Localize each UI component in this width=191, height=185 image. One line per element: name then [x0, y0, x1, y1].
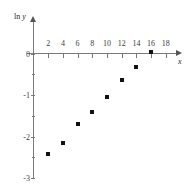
x-axis-tick	[63, 54, 64, 58]
y-axis-line	[33, 22, 34, 178]
y-axis-arrow-icon	[30, 16, 36, 22]
data-point	[149, 50, 153, 54]
x-axis-tick	[122, 54, 123, 58]
x-axis-tick	[166, 54, 167, 58]
data-point	[90, 110, 94, 114]
y-axis-tick-label: -1	[18, 91, 30, 100]
x-axis-tick	[136, 54, 137, 58]
x-axis-tick	[151, 54, 152, 58]
y-axis-minor-tick	[32, 157, 35, 158]
x-axis-tick-label: 4	[61, 39, 65, 48]
x-axis-tick-label: 14	[132, 39, 140, 48]
x-axis-arrow-icon	[176, 50, 182, 56]
x-axis-tick-label: 16	[147, 39, 155, 48]
y-axis-title-variable: y	[22, 12, 26, 21]
data-point	[46, 152, 50, 156]
y-axis-minor-tick	[32, 116, 35, 117]
data-point	[105, 95, 109, 99]
x-axis-tick	[92, 54, 93, 58]
x-axis-tick	[107, 54, 108, 58]
y-axis-tick-label: -2	[18, 132, 30, 141]
plot-area: ln y x 24681012141618 0-1-2-3	[0, 0, 191, 185]
x-axis-tick-label: 18	[162, 39, 170, 48]
y-axis-tick	[31, 95, 35, 96]
x-axis-tick	[78, 54, 79, 58]
y-axis-tick	[31, 137, 35, 138]
data-point	[120, 78, 124, 82]
x-axis-tick-label: 2	[46, 39, 50, 48]
y-axis-tick	[31, 54, 35, 55]
x-axis-tick-label: 10	[103, 39, 111, 48]
x-axis-tick-label: 6	[76, 39, 80, 48]
data-point	[134, 65, 138, 69]
y-axis-minor-tick	[32, 74, 35, 75]
scatter-plot-figure: ln y x 24681012141618 0-1-2-3	[0, 0, 191, 185]
y-axis-tick-label: -3	[18, 174, 30, 183]
x-axis-title: x	[178, 57, 182, 66]
x-axis-tick-label: 8	[90, 39, 94, 48]
data-point	[61, 141, 65, 145]
y-axis-tick-label: 0	[18, 49, 30, 58]
data-point	[76, 122, 80, 126]
y-axis-title-prefix: ln	[14, 12, 22, 21]
x-axis-tick	[48, 54, 49, 58]
y-axis-title: ln y	[14, 12, 26, 21]
y-axis-tick	[31, 178, 35, 179]
x-axis-tick-label: 12	[118, 39, 126, 48]
x-axis-line	[27, 53, 177, 54]
